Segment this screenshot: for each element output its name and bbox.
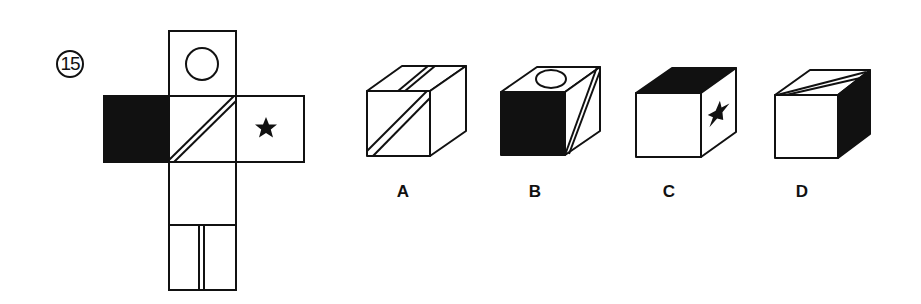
option-b-label[interactable]: B — [529, 182, 541, 202]
option-c-cube[interactable] — [636, 68, 736, 157]
option-d-cube[interactable] — [775, 70, 870, 158]
net-face-center-diagonal — [169, 96, 236, 162]
puzzle-figure: 15 — [0, 0, 921, 304]
net-face-blank — [169, 162, 236, 225]
option-a-cube[interactable] — [367, 66, 466, 156]
option-c-label[interactable]: C — [663, 182, 675, 202]
net-face-top-circle — [169, 31, 236, 96]
cube-net — [104, 31, 304, 290]
net-face-left-black — [104, 96, 169, 162]
option-d-label[interactable]: D — [796, 182, 808, 202]
net-face-right-star — [236, 96, 304, 162]
puzzle-drawing — [0, 0, 921, 304]
option-b-cube[interactable] — [501, 67, 600, 155]
option-a-label[interactable]: A — [397, 182, 409, 202]
net-face-bottom-double-line — [169, 225, 236, 290]
